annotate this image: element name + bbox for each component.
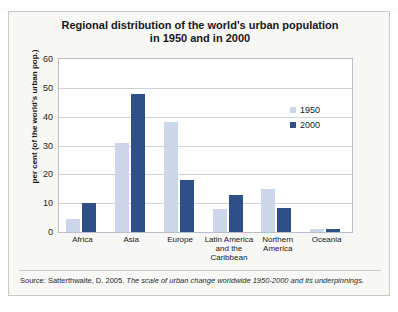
- chart-figure: Regional distribution of the world's urb…: [8, 11, 390, 296]
- x-axis-tick-label: Asia: [107, 235, 156, 244]
- page-title: Regional distribution of the world's urb…: [9, 19, 391, 45]
- legend-item: 1950: [290, 105, 320, 115]
- bar: [310, 229, 324, 232]
- bar-group: [157, 59, 206, 232]
- source-title: The scale of urban change worldwide 1950…: [126, 276, 364, 285]
- bar: [180, 180, 194, 232]
- bar: [131, 94, 145, 232]
- source-note: Source: Satterthwaite, D. 2005. The scal…: [20, 276, 382, 286]
- bar-group: [59, 59, 108, 232]
- y-axis-tick-label: 20: [43, 169, 53, 179]
- source-divider: [19, 270, 381, 271]
- bar: [261, 189, 275, 232]
- x-axis-tick-label: Oceania: [302, 235, 351, 244]
- legend-swatch-icon: [290, 107, 296, 113]
- chart-title-line-1: Regional distribution of the world's urb…: [62, 19, 339, 31]
- legend-label: 2000: [300, 120, 320, 130]
- bar: [229, 195, 243, 232]
- plot-area: [58, 58, 353, 233]
- bar-group: [206, 59, 255, 232]
- scan-artifact-strip: ·· · ··· · · ·: [0, 0, 398, 11]
- x-axis-tick-label: Africa: [58, 235, 107, 244]
- x-axis-tick-label: Latin Americaand theCaribbean: [205, 235, 254, 262]
- bar-group: [108, 59, 157, 232]
- bar: [213, 209, 227, 232]
- y-axis-tick-label: 10: [43, 198, 53, 208]
- legend-swatch-icon: [290, 122, 296, 128]
- bar: [66, 219, 80, 232]
- legend-item: 2000: [290, 120, 320, 130]
- y-axis-tick-label: 60: [43, 54, 53, 64]
- scan-artifact-text: ·· · ··· · · ·: [8, 0, 103, 1]
- source-prefix: Source: Satterthwaite, D. 2005.: [20, 276, 126, 285]
- bar: [164, 122, 178, 232]
- legend-label: 1950: [300, 105, 320, 115]
- chart-title-line-2: in 1950 and in 2000: [9, 32, 391, 45]
- bar: [277, 208, 291, 233]
- x-axis-tick-label: NorthernAmerica: [253, 235, 302, 253]
- x-axis-tick-label: Europe: [156, 235, 205, 244]
- y-axis-title: per cent (of the world's urban pop.): [30, 32, 39, 202]
- y-axis-tick-label: 0: [48, 227, 53, 237]
- y-axis-tick-label: 30: [43, 141, 53, 151]
- bar: [115, 143, 129, 232]
- bar: [326, 229, 340, 232]
- y-axis-tick-label: 40: [43, 112, 53, 122]
- y-axis-tick-label: 50: [43, 83, 53, 93]
- chart-legend: 19502000: [290, 105, 320, 135]
- bar-group: [303, 59, 352, 232]
- bar-group: [254, 59, 303, 232]
- bar-series-container: [59, 59, 352, 232]
- bar: [82, 203, 96, 232]
